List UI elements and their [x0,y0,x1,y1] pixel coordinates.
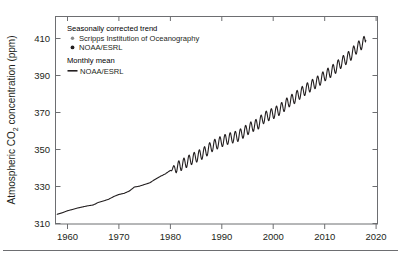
x-tick-label-0: 1960 [57,231,78,242]
y-tick-label-1: 330 [34,181,50,192]
co2-chart: 310 330 350 370 390 410 1960 1970 1980 1… [0,0,401,262]
y-axis-label-main: Atmospheric CO [6,131,17,205]
x-tick-label-5: 2010 [314,231,335,242]
y-tick-label-4: 390 [34,70,50,81]
y-axis-label-tail: concentration (ppm) [6,36,17,128]
y-tick-label-3: 370 [34,107,50,118]
y-axis-label: Atmospheric CO2 concentration (ppm) [6,36,19,205]
x-tick-label-1: 1970 [108,231,129,242]
y-tick-label-5: 410 [34,33,50,44]
x-tick-label-3: 1990 [211,231,232,242]
legend-scripps-label: Scripps Institution of Oceanography [79,34,200,43]
legend-noaa-trend-label: NOAA/ESRL [79,43,122,52]
x-tick-label-2: 1980 [160,231,181,242]
legend-monthly-title: Monthly mean [67,56,115,65]
y-tick-label-0: 310 [34,218,50,229]
legend-noaa-trend-dot-icon [71,46,75,50]
figure-container: 310 330 350 370 390 410 1960 1970 1980 1… [0,0,401,262]
legend-scripps-dot-icon [71,37,74,40]
legend-trend-title: Seasonally corrected trend [67,24,157,33]
legend: Seasonally corrected trend Scripps Insti… [67,24,200,76]
footer-divider [3,250,398,251]
x-tick-label-4: 2000 [263,231,284,242]
y-tick-label-2: 350 [34,144,50,155]
legend-noaa-monthly-label: NOAA/ESRL [80,67,123,76]
x-tick-label-6: 2020 [366,231,387,242]
